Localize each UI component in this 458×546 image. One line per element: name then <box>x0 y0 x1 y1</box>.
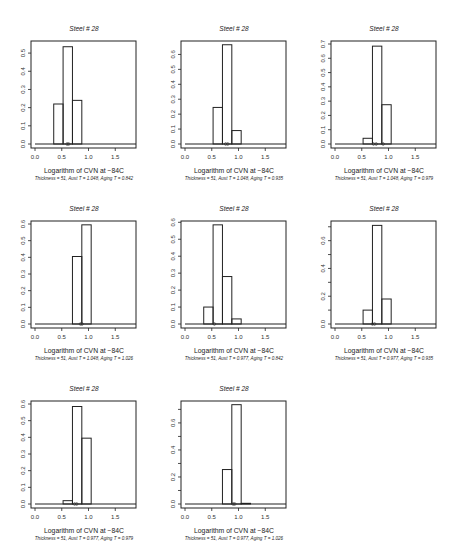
x-tick-label: 0.5 <box>208 334 217 340</box>
x-tick-label: 0.5 <box>58 334 67 340</box>
y-tick-label: 0.2 <box>170 109 176 118</box>
x-tick-label: 1.0 <box>234 154 243 160</box>
panel-title: Steel # 28 <box>369 25 399 32</box>
y-tick-label: 0.4 <box>20 66 26 75</box>
histogram-bar <box>222 45 231 144</box>
histogram-panel: Steel # 280.00.51.01.50.00.20.40.6Logari… <box>320 205 436 361</box>
y-tick-label: 0.6 <box>320 53 326 62</box>
y-tick-label: 0.1 <box>20 483 26 492</box>
histogram-panel: Steel # 280.00.51.01.50.00.10.20.30.40.5… <box>20 25 136 181</box>
x-axis-label: Logarithm of CVN at −84C <box>194 167 274 175</box>
plot-frame <box>181 221 286 328</box>
y-tick-label: 0.1 <box>170 302 176 311</box>
x-axis-label: Logarithm of CVN at −84C <box>344 347 424 355</box>
y-tick-label: 0.5 <box>320 68 326 77</box>
x-axis-label: Logarithm of CVN at −84C <box>194 527 274 535</box>
histogram-bar <box>363 310 372 324</box>
panel-subtitle: Thickness = 51, Aust T = 0.977, Aging T … <box>335 356 434 361</box>
histogram-bar <box>213 225 222 324</box>
histogram-bar <box>382 105 391 144</box>
x-axis-label: Logarithm of CVN at −84C <box>44 347 124 355</box>
y-tick-label: 0.5 <box>20 236 26 245</box>
y-tick-label: 0.0 <box>170 319 176 328</box>
x-tick-label: 0.0 <box>31 514 40 520</box>
histogram-bar <box>63 47 72 144</box>
x-tick-label: 1.5 <box>261 514 270 520</box>
panel-subtitle: Thickness = 51, Aust T = 1.048, Aging T … <box>335 176 434 181</box>
panel-title: Steel # 28 <box>219 25 249 32</box>
y-tick-label: 0.3 <box>20 269 26 278</box>
y-tick-label: 0.2 <box>20 466 26 475</box>
y-tick-label: 0.0 <box>20 499 26 508</box>
x-tick-label: 0.5 <box>208 154 217 160</box>
x-tick-label: 0.0 <box>181 154 190 160</box>
y-tick-label: 0.3 <box>170 94 176 103</box>
histogram-panel: Steel # 280.00.51.01.50.00.10.20.30.40.5… <box>320 25 436 181</box>
y-tick-label: 0.4 <box>170 445 176 454</box>
y-tick-label: 0.6 <box>170 217 176 226</box>
histogram-bar <box>372 225 381 324</box>
histogram-bar <box>204 307 213 324</box>
x-tick-label: 0.0 <box>331 154 340 160</box>
histogram-bar <box>382 299 391 324</box>
plot-frame <box>31 401 136 508</box>
y-tick-label: 0.3 <box>170 268 176 277</box>
histogram-panel: Steel # 280.00.51.01.50.00.10.20.30.40.5… <box>170 205 286 361</box>
panel-subtitle: Thickness = 51, Aust T = 1.048, Aging T … <box>35 176 134 181</box>
panel-title: Steel # 28 <box>69 385 99 392</box>
panel-title: Steel # 28 <box>219 385 249 392</box>
y-tick-label: 0.0 <box>170 499 176 508</box>
y-tick-label: 0.5 <box>20 48 26 57</box>
histogram-bar <box>213 107 222 144</box>
x-tick-label: 0.5 <box>358 334 367 340</box>
x-tick-label: 1.5 <box>111 334 120 340</box>
y-tick-label: 0.2 <box>20 286 26 295</box>
histogram-bar <box>222 470 231 504</box>
x-tick-label: 0.0 <box>181 514 190 520</box>
histogram-bar <box>363 138 372 144</box>
y-tick-label: 0.4 <box>20 253 26 262</box>
panel-subtitle: Thickness = 51, Aust T = 0.977, Aging T … <box>185 536 284 541</box>
plot-frame <box>331 221 436 328</box>
histogram-panel: Steel # 280.00.51.01.50.00.20.40.6Logari… <box>170 385 286 541</box>
plot-frame <box>181 41 286 148</box>
y-tick-label: 0.5 <box>20 416 26 425</box>
plot-frame <box>31 41 136 148</box>
y-tick-label: 0.3 <box>320 96 326 105</box>
histogram-bar <box>72 100 81 144</box>
y-tick-label: 0.4 <box>20 433 26 442</box>
x-tick-label: 0.0 <box>331 334 340 340</box>
y-tick-label: 0.6 <box>170 50 176 59</box>
panel-subtitle: Thickness = 51, Aust T = 1.048, Aging T … <box>185 176 284 181</box>
y-tick-label: 0.1 <box>170 124 176 133</box>
panel-subtitle: Thickness = 51, Aust T = 1.048, Aging T … <box>35 356 134 361</box>
y-tick-label: 0.2 <box>20 103 26 112</box>
y-tick-label: 0.4 <box>320 82 326 91</box>
histogram-panel: Steel # 280.00.51.01.50.00.10.20.30.40.5… <box>170 25 286 181</box>
histogram-bar <box>54 104 63 144</box>
y-tick-label: 0.2 <box>170 285 176 294</box>
panel-title: Steel # 28 <box>69 25 99 32</box>
y-tick-label: 0.2 <box>320 291 326 300</box>
histogram-bar <box>72 407 81 505</box>
x-axis-label: Logarithm of CVN at −84C <box>44 527 124 535</box>
x-axis-label: Logarithm of CVN at −84C <box>344 167 424 175</box>
x-tick-label: 0.0 <box>31 334 40 340</box>
histogram-bar <box>222 277 231 324</box>
y-tick-label: 0.0 <box>20 139 26 148</box>
plot-frame <box>331 41 436 148</box>
histogram-panel: Steel # 280.00.51.01.50.00.10.20.30.40.5… <box>20 385 136 541</box>
histogram-bar <box>82 225 91 324</box>
histogram-grid-figure: Steel # 280.00.51.01.50.00.10.20.30.40.5… <box>0 0 458 546</box>
y-tick-label: 0.4 <box>170 79 176 88</box>
x-tick-label: 0.5 <box>208 514 217 520</box>
y-tick-label: 0.5 <box>170 65 176 74</box>
panel-subtitle: Thickness = 51, Aust T = 0.977, Aging T … <box>35 536 134 541</box>
y-tick-label: 0.0 <box>20 319 26 328</box>
x-tick-label: 1.0 <box>84 154 93 160</box>
histogram-bar <box>72 257 81 325</box>
x-tick-label: 1.0 <box>84 334 93 340</box>
x-tick-label: 1.0 <box>384 154 393 160</box>
x-tick-label: 1.0 <box>234 514 243 520</box>
x-tick-label: 1.0 <box>234 334 243 340</box>
